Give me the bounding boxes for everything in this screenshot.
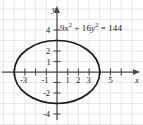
ytick-label-4: 4 (46, 26, 50, 35)
ytick-label-1: 1 (47, 58, 51, 67)
eq-a-exp: 2 (69, 21, 72, 28)
ytick-label-2: 2 (46, 47, 50, 56)
eq-equals: = (101, 23, 106, 33)
eq-b-coef: 16 (82, 23, 91, 33)
xtick-label-1: 1 (66, 76, 70, 85)
eq-b-exp: 2 (95, 21, 98, 28)
equation-annotation: 9x2 + 16y2 = 144 (60, 24, 122, 33)
eq-plus: + (74, 23, 79, 33)
xtick-label-2: 2 (76, 76, 80, 85)
graph-canvas (0, 0, 143, 125)
xtick-label-neg1: -1 (42, 76, 49, 85)
y-axis-label: y (52, 5, 56, 14)
xtick-label-5: 5 (109, 76, 113, 85)
ytick-label-neg2: -2 (43, 89, 50, 98)
ellipse-graph-figure: y x -3 -1 1 2 3 5 4 2 1 -2 -4 9x2 + 16y2… (0, 0, 143, 125)
xtick-label-neg3: -3 (20, 76, 27, 85)
eq-rhs: 144 (108, 23, 122, 33)
xtick-label-3: 3 (87, 76, 91, 85)
x-axis-label: x (135, 76, 139, 85)
ytick-label-neg4: -4 (43, 110, 50, 119)
vertical-gridlines (4, 0, 132, 125)
